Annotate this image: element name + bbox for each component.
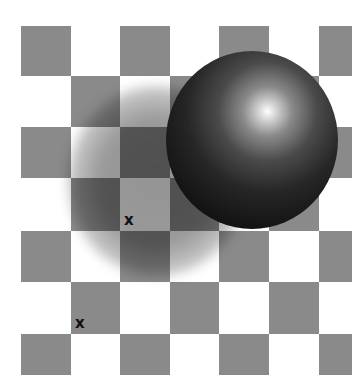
checker-square-dark xyxy=(170,282,219,334)
checker-shadow-scene: x x xyxy=(0,0,352,375)
checker-square-dark xyxy=(21,127,71,178)
sphere xyxy=(166,51,338,229)
marker-x-in-shadow: x xyxy=(124,213,134,228)
checker-square-dark xyxy=(269,282,319,334)
checker-square-dark xyxy=(120,334,170,375)
marker-x-outside-shadow: x xyxy=(75,316,85,331)
checker-square-dark xyxy=(319,334,352,375)
checker-square-dark xyxy=(21,26,71,76)
checker-square-dark xyxy=(21,231,71,282)
checker-square-dark xyxy=(319,231,352,282)
checker-square-dark xyxy=(319,26,352,76)
checker-square-dark xyxy=(120,26,170,76)
checker-square-dark xyxy=(21,334,71,375)
checker-square-dark xyxy=(219,334,269,375)
